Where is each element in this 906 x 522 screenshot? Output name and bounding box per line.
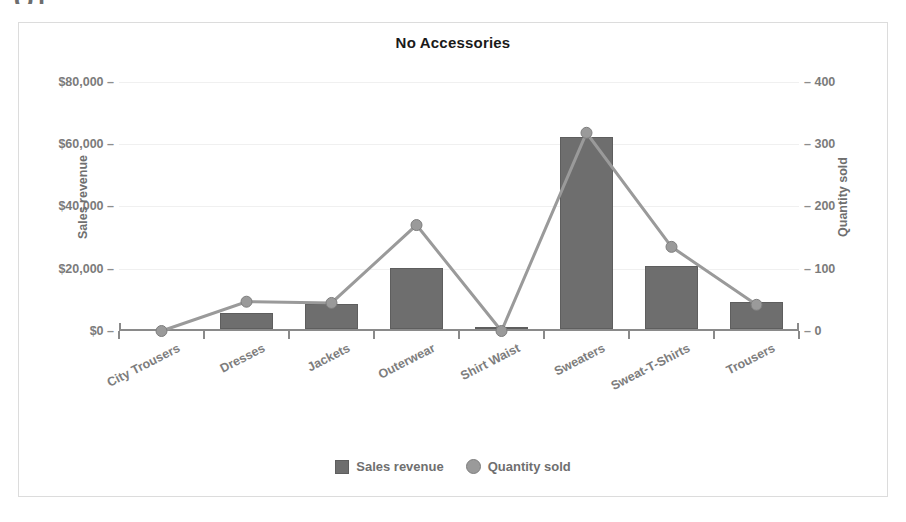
x-axis-category-label: Jackets [305, 341, 352, 374]
legend-label: Quantity sold [488, 459, 571, 474]
right-axis-tick-label: – 100 [804, 262, 835, 276]
right-axis-tick-label: – 0 [804, 324, 821, 338]
tick-dash-icon: – [107, 262, 114, 276]
tick-text: 0 [814, 324, 821, 338]
x-axis-tick [288, 331, 290, 339]
legend-item[interactable]: Quantity sold [466, 459, 571, 474]
x-axis-tick [373, 331, 375, 339]
tick-dash-icon: – [804, 75, 811, 89]
right-axis-tick-label: – 200 [804, 199, 835, 213]
data-point-marker[interactable] [411, 220, 422, 231]
x-axis-tick [118, 331, 120, 339]
left-axis-tick-label: $20,000 – [58, 262, 114, 276]
legend-item[interactable]: Sales revenue [335, 459, 443, 474]
left-axis-tick-label: $80,000 – [58, 75, 114, 89]
data-point-marker[interactable] [666, 241, 677, 252]
right-axis-tick-label: – 300 [804, 137, 835, 151]
x-axis-category-label: Sweat-T-Shirts [608, 341, 692, 393]
clipped-page-heading: Q1 [14, 0, 48, 4]
tick-dash-icon: – [804, 199, 811, 213]
tick-text: $60,000 [58, 137, 103, 151]
tick-dash-icon: – [107, 137, 114, 151]
tick-text: $20,000 [58, 262, 103, 276]
x-axis-category-label: Dresses [217, 341, 267, 376]
tick-dash-icon: – [804, 324, 811, 338]
x-axis-tick [713, 331, 715, 339]
tick-dash-icon: – [107, 199, 114, 213]
chart-legend: Sales revenueQuantity sold [19, 459, 887, 474]
tick-text: 300 [814, 137, 835, 151]
tick-dash-icon: – [107, 324, 114, 338]
x-axis-category-label: Trousers [723, 341, 776, 377]
x-axis-tick [798, 331, 800, 339]
data-point-marker[interactable] [581, 127, 592, 138]
x-axis-category-label: Outerwear [375, 341, 436, 382]
data-point-marker[interactable] [496, 326, 507, 337]
tick-text: 100 [814, 262, 835, 276]
legend-circle-icon [466, 459, 481, 474]
data-point-marker[interactable] [326, 297, 337, 308]
right-axis-tick-label: – 400 [804, 75, 835, 89]
tick-text: 400 [814, 75, 835, 89]
chart-frame: No Accessories $0 –$20,000 –$40,000 –$60… [18, 22, 888, 497]
plot-area: $0 –$20,000 –$40,000 –$60,000 –$80,000 –… [119, 63, 799, 331]
x-axis-tick [458, 331, 460, 339]
data-point-marker[interactable] [156, 326, 167, 337]
right-axis-title: Quantity sold [836, 157, 850, 237]
x-axis-category-label: Shirt Waist [458, 341, 522, 383]
tick-text: $0 [90, 324, 104, 338]
left-axis-tick-label: $0 – [90, 324, 114, 338]
tick-text: 200 [814, 199, 835, 213]
tick-text: $80,000 [58, 75, 103, 89]
tick-dash-icon: – [804, 262, 811, 276]
tick-dash-icon: – [804, 137, 811, 151]
chart-title: No Accessories [19, 34, 887, 51]
left-axis-title: Sales revenue [76, 155, 90, 239]
x-axis-tick [203, 331, 205, 339]
x-axis-tick [628, 331, 630, 339]
data-point-marker[interactable] [241, 296, 252, 307]
data-point-marker[interactable] [751, 299, 762, 310]
line-series [119, 63, 799, 331]
left-axis-tick-label: $60,000 – [58, 137, 114, 151]
tick-dash-icon: – [107, 75, 114, 89]
legend-square-icon [335, 460, 349, 474]
x-axis-category-label: Sweaters [552, 341, 607, 378]
x-axis-category-label: City Trousers [104, 341, 182, 390]
x-axis-tick [543, 331, 545, 339]
legend-label: Sales revenue [356, 459, 443, 474]
